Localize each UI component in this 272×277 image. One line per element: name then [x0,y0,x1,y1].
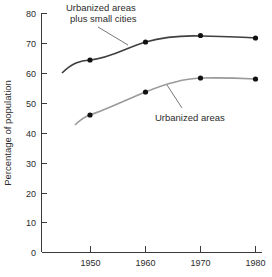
annotation-upper-line2: plus small cities [70,13,137,24]
y-tick-label-50: 50 [26,99,36,109]
annotation-lower-line1: Urbanized areas [155,112,225,123]
data-point-upper-1950 [87,57,92,62]
data-point-upper-1970 [198,33,203,38]
y-tick-label-80: 80 [26,9,36,19]
y-tick-label-40: 40 [26,129,36,139]
y-tick-label-60: 60 [26,69,36,79]
x-tick-label-1980: 1980 [245,258,265,268]
x-tick-label-1950: 1950 [80,258,100,268]
chart-background [0,0,272,277]
annotation-upper-line1: Urbanized areas [66,2,136,13]
y-tick-label-20: 20 [26,189,36,199]
data-point-lower-1960 [143,89,148,94]
data-point-lower-1970 [198,75,203,80]
data-point-upper-1960 [143,39,148,44]
data-point-lower-1950 [87,112,92,117]
data-point-upper-1980 [253,35,258,40]
y-tick-label-30: 30 [26,159,36,169]
chart-page: 80 70 60 50 40 30 20 10 0 1950 1960 1970… [0,0,272,277]
line-chart: 80 70 60 50 40 30 20 10 0 1950 1960 1970… [0,0,272,277]
x-tick-label-1960: 1960 [135,258,155,268]
y-tick-label-70: 70 [26,39,36,49]
y-tick-label-0: 0 [31,248,36,258]
y-tick-label-10: 10 [26,218,36,228]
data-point-lower-1980 [253,76,258,81]
x-tick-label-1970: 1970 [190,258,210,268]
y-axis-title: Percentage of population [2,80,13,186]
